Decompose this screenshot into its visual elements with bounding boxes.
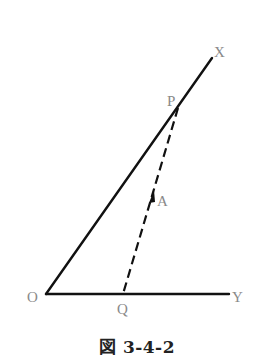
label-p: P: [167, 93, 175, 109]
label-a: A: [157, 193, 168, 209]
label-y: Y: [232, 289, 243, 305]
label-x: X: [214, 44, 225, 60]
geometry-diagram: X P A O Q Y: [0, 0, 254, 364]
figure-caption: 図 3-4-2: [0, 333, 254, 358]
label-o: O: [27, 289, 38, 305]
ray-ox: [46, 58, 212, 294]
label-q: Q: [117, 301, 128, 317]
arrow-head-icon: [149, 190, 155, 203]
